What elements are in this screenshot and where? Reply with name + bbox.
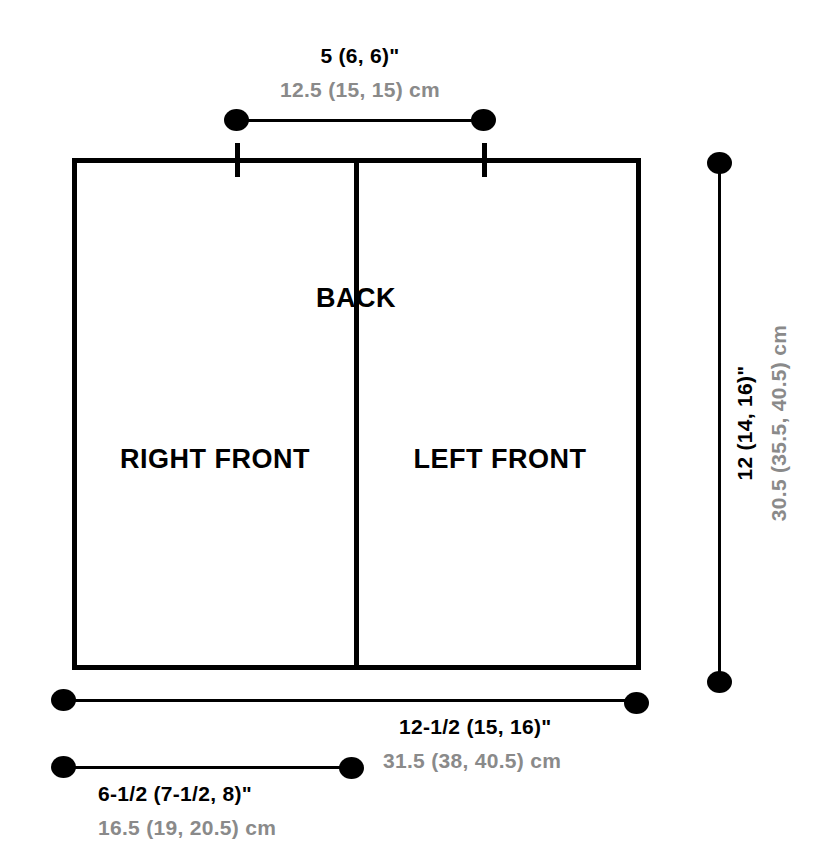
measurement-body-length-metric: 30.5 (35.5, 40.5) cm <box>767 325 791 521</box>
measurement-line-front-width <box>64 766 352 769</box>
measurement-front-width-metric: 16.5 (19, 20.5) cm <box>98 816 276 840</box>
measurement-neck-width-imperial: 5 (6, 6)" <box>320 44 399 68</box>
measurement-front-width-imperial: 6-1/2 (7-1/2, 8)" <box>98 782 252 806</box>
measurement-endpoint-dot <box>471 109 496 131</box>
measurement-endpoint-dot <box>707 152 732 174</box>
measurement-full-width-metric: 31.5 (38, 40.5) cm <box>383 749 561 773</box>
measurement-line-full-width <box>64 699 637 702</box>
measurement-endpoint-dot <box>51 756 76 778</box>
measurement-endpoint-dot <box>624 692 649 714</box>
measurement-neck-width-metric: 12.5 (15, 15) cm <box>280 78 440 102</box>
neck-tick-left-icon <box>235 143 240 177</box>
measurement-line-body-length <box>718 163 721 682</box>
measurement-endpoint-dot <box>224 109 249 131</box>
measurement-body-length-imperial: 12 (14, 16)" <box>733 365 757 480</box>
measurement-endpoint-dot <box>51 689 76 711</box>
measurement-endpoint-dot <box>339 757 364 779</box>
panel-label-right-front: RIGHT FRONT <box>120 444 310 475</box>
measurement-endpoint-dot <box>707 671 732 693</box>
neck-tick-right-icon <box>482 143 487 177</box>
garment-schematic-diagram: BACK RIGHT FRONT LEFT FRONT 5 (6, 6)" 12… <box>0 0 826 868</box>
panel-label-left-front: LEFT FRONT <box>414 444 587 475</box>
measurement-full-width-imperial: 12-1/2 (15, 16)" <box>399 715 552 739</box>
center-front-divider-line <box>354 158 359 670</box>
panel-label-back: BACK <box>316 283 396 314</box>
measurement-line-neck-width <box>237 119 484 122</box>
